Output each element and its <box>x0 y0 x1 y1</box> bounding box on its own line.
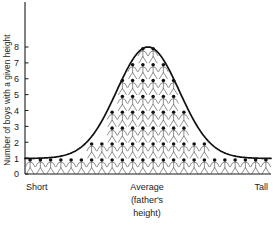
stick-figure-head <box>80 158 84 162</box>
stick-figure-head <box>162 95 166 99</box>
stick-figure-head <box>141 95 145 99</box>
stick-figure-legs <box>200 152 208 158</box>
stick-figure-icon <box>97 158 106 174</box>
stick-figure-legs <box>139 152 147 158</box>
pictogram-column <box>251 158 260 174</box>
stick-figure-head <box>151 126 155 130</box>
distribution-chart-figure: Number of boys with a given height 01234… <box>0 0 275 225</box>
stick-figure-icon <box>128 95 137 111</box>
stick-figure-legs <box>129 104 137 110</box>
stick-figure-legs <box>149 88 157 94</box>
stick-figure-legs <box>149 168 157 174</box>
stick-figure-icon <box>159 95 168 111</box>
stick-figure-legs <box>139 104 147 110</box>
stick-figure-icon <box>56 158 65 174</box>
stick-figure-icon <box>261 158 270 174</box>
stick-figure-icon <box>200 158 209 174</box>
stick-figure-legs <box>139 120 147 126</box>
pictogram-column <box>46 158 55 174</box>
stick-figure-head <box>151 79 155 83</box>
stick-figure-icon <box>138 158 147 174</box>
stick-figure-head <box>182 158 186 162</box>
stick-figure-legs <box>159 72 167 78</box>
stick-figure-icon <box>138 111 147 127</box>
stick-figure-icon <box>128 79 137 95</box>
stick-figure-icon <box>148 158 157 174</box>
stick-figure-head <box>203 142 207 146</box>
stick-figure-legs <box>180 120 188 126</box>
stick-figure-legs <box>139 136 147 142</box>
stick-figure-legs <box>129 168 137 174</box>
stick-figure-legs <box>180 136 188 142</box>
stick-figure-legs <box>149 72 157 78</box>
pictogram-column <box>56 158 65 174</box>
stick-figure-legs <box>77 168 85 174</box>
stick-figure-icon <box>87 142 96 158</box>
stick-figure-icon <box>148 63 157 79</box>
stick-figure-legs <box>159 88 167 94</box>
stick-figure-icon <box>159 158 168 174</box>
stick-figure-icon <box>251 158 260 174</box>
y-tick-label-4: 4 <box>14 106 19 116</box>
stick-figure-head <box>90 142 94 146</box>
stick-figure-icon <box>169 111 178 127</box>
bell-curve-overlay <box>25 47 271 158</box>
stick-figure-legs <box>26 168 34 174</box>
stick-figure-head <box>182 126 186 130</box>
stick-figure-legs <box>98 168 106 174</box>
stick-figure-head <box>110 142 114 146</box>
stick-figure-head <box>59 158 63 162</box>
stick-figure-icon <box>159 126 168 142</box>
stick-figure-icon <box>107 142 116 158</box>
stick-figure-legs <box>170 104 178 110</box>
stick-figure-legs <box>67 168 75 174</box>
stick-figure-icon <box>107 111 116 127</box>
pictogram-column <box>66 158 75 174</box>
stick-figure-head <box>141 158 145 162</box>
stick-figure-icon <box>148 79 157 95</box>
x-axis-label-short: Short <box>26 182 48 192</box>
y-tick-label-8: 8 <box>14 42 19 52</box>
pictogram-column <box>169 79 178 174</box>
stick-figure-head <box>151 142 155 146</box>
stick-figure-icon <box>118 95 127 111</box>
stick-figure-legs <box>118 88 126 94</box>
y-tick-label-0: 0 <box>14 169 19 179</box>
stick-figure-head <box>131 142 135 146</box>
stick-figure-head <box>141 63 145 67</box>
stick-figure-head <box>131 126 135 130</box>
stick-figure-icon <box>189 158 198 174</box>
stick-figure-legs <box>139 88 147 94</box>
stick-figure-head <box>172 126 176 130</box>
stick-figure-icon <box>179 126 188 142</box>
stick-figure-head <box>141 142 145 146</box>
stick-figure-head <box>49 158 53 162</box>
stick-figure-head <box>172 158 176 162</box>
stick-figure-legs <box>129 88 137 94</box>
stick-figure-head <box>192 142 196 146</box>
stick-figure-head <box>100 158 104 162</box>
stick-figure-head <box>100 142 104 146</box>
stick-figure-head <box>203 158 207 162</box>
stick-figure-icon <box>138 142 147 158</box>
stick-figure-legs <box>149 120 157 126</box>
stick-figure-icon <box>128 111 137 127</box>
stick-figure-legs <box>88 168 96 174</box>
stick-figure-legs <box>108 168 116 174</box>
pictogram-column <box>210 158 219 174</box>
stick-figure-head <box>151 158 155 162</box>
stick-figure-head <box>151 63 155 67</box>
stick-figure-head <box>172 142 176 146</box>
pictogram-column <box>128 63 137 174</box>
stick-figure-icon <box>159 142 168 158</box>
stick-figure-icon <box>148 142 157 158</box>
stick-figure-head <box>131 95 135 99</box>
stick-figure-legs <box>129 136 137 142</box>
y-tick-label-1: 1 <box>14 154 19 164</box>
y-tick-label-6: 6 <box>14 74 19 84</box>
pictogram-column <box>36 158 45 174</box>
x-axis-label-average-line2: (father's <box>131 195 164 205</box>
stick-figure-head <box>131 158 135 162</box>
stick-figure-head <box>131 111 135 115</box>
stick-figure-legs <box>170 168 178 174</box>
